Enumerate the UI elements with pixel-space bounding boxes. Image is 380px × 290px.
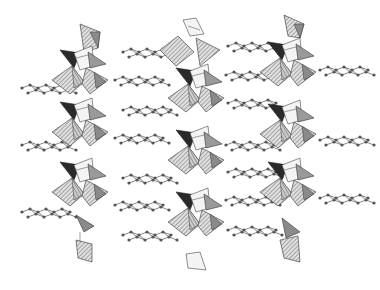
crystal-structure-diagram bbox=[0, 0, 380, 290]
polyhedral-chain-right bbox=[260, 15, 316, 262]
polyhedral-chain-left bbox=[52, 24, 108, 262]
